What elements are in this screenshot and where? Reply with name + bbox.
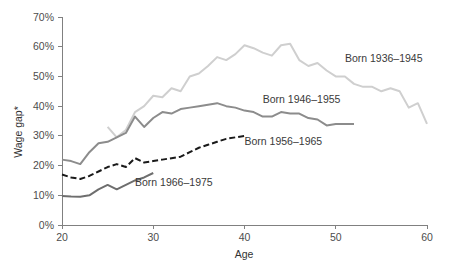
y-tick-label: 70% xyxy=(33,11,54,23)
tick-marks-group xyxy=(58,17,427,229)
series-line-born-1946-1955 xyxy=(62,103,354,164)
series-lines-group xyxy=(62,44,427,197)
series-line-born-1956-1965 xyxy=(62,136,245,179)
x-tick-label: 50 xyxy=(330,231,342,243)
y-tick-labels: 0%10%20%30%40%50%60%70% xyxy=(33,11,54,231)
y-tick-label: 10% xyxy=(33,189,54,201)
series-label-born-1936-1945: Born 1936–1945 xyxy=(345,52,423,64)
y-tick-label: 0% xyxy=(39,219,54,231)
wage-gap-line-chart: 0%10%20%30%40%50%60%70% 2030405060 Born … xyxy=(0,0,449,271)
x-tick-label: 40 xyxy=(239,231,251,243)
x-tick-label: 20 xyxy=(56,231,68,243)
y-tick-label: 30% xyxy=(33,129,54,141)
axes-group xyxy=(62,17,427,225)
x-tick-labels: 2030405060 xyxy=(56,231,433,243)
series-label-born-1946-1955: Born 1946–1955 xyxy=(263,93,341,105)
x-tick-label: 30 xyxy=(147,231,159,243)
y-tick-label: 20% xyxy=(33,159,54,171)
x-axis-title: Age xyxy=(235,248,254,260)
series-label-born-1966-1975: Born 1966–1975 xyxy=(135,176,213,188)
y-tick-label: 40% xyxy=(33,100,54,112)
series-label-born-1956-1965: Born 1956–1965 xyxy=(245,135,323,147)
x-tick-label: 60 xyxy=(421,231,433,243)
y-tick-label: 60% xyxy=(33,40,54,52)
series-annotation-labels: Born 1936–1945Born 1946–1955Born 1956–19… xyxy=(135,52,423,189)
y-axis-title: Wage gap* xyxy=(12,106,24,158)
y-tick-label: 50% xyxy=(33,70,54,82)
chart-canvas: 0%10%20%30%40%50%60%70% 2030405060 Born … xyxy=(0,0,449,271)
